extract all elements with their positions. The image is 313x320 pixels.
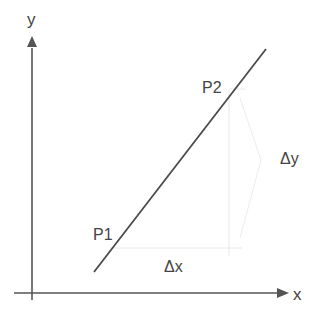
- p2-label: P2: [202, 79, 222, 96]
- p1-label: P1: [93, 226, 113, 243]
- slope-line: [94, 49, 266, 272]
- dy-bracket: [240, 98, 261, 238]
- dy-label: Δy: [280, 150, 299, 167]
- y-axis-label: y: [27, 10, 36, 29]
- x-axis-label: x: [293, 285, 302, 304]
- y-axis: [27, 36, 37, 300]
- delta-guides: [110, 89, 261, 256]
- y-axis-arrow-icon: [27, 36, 37, 47]
- x-axis: [14, 288, 289, 298]
- x-axis-arrow-icon: [277, 288, 289, 298]
- slope-diagram: y x P1 P2 Δx Δy: [0, 0, 313, 320]
- dx-label: Δx: [164, 258, 183, 275]
